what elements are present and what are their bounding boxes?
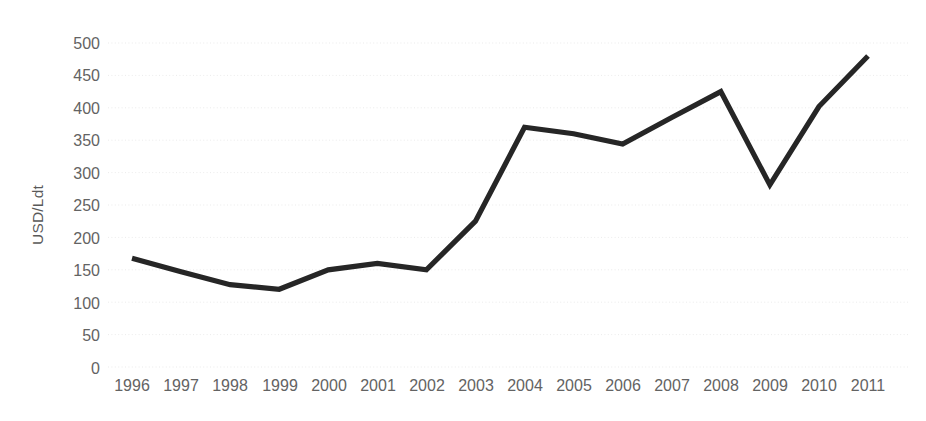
- x-tick-label: 2011: [838, 378, 898, 394]
- x-axis-tick-labels: 1996 1997 1998 1999 2000 2001 2002 2003 …: [0, 0, 926, 421]
- line-chart-figure: USD/Ldt 500 450 400 350 300 250 200 150 …: [0, 0, 926, 421]
